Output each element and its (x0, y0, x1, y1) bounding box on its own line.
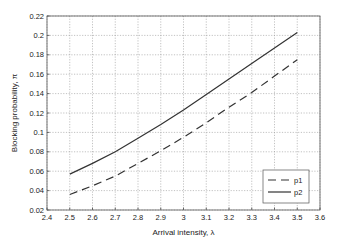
x-tick-label: 2.8 (133, 213, 143, 222)
y-tick-label: 0.08 (29, 147, 44, 156)
x-tick-label: 2.9 (156, 213, 166, 222)
y-tick-label: 0.14 (29, 89, 44, 98)
x-tick-label: 2.7 (110, 213, 120, 222)
line-chart: 2.42.52.62.72.82.933.13.23.33.43.53.60.0… (0, 0, 337, 247)
y-tick-label: 0.02 (29, 206, 44, 215)
y-tick-label: 0.2 (34, 31, 44, 40)
y-tick-label: 0.16 (29, 70, 44, 79)
y-tick-label: 0.06 (29, 167, 44, 176)
x-tick-label: 3 (181, 213, 185, 222)
x-axis-title: Arrival intensity, λ (152, 228, 214, 237)
y-tick-label: 0.04 (29, 186, 44, 195)
legend-box (263, 170, 309, 203)
legend-label-p1: p1 (294, 176, 302, 185)
x-tick-label: 3.4 (269, 213, 279, 222)
x-tick-label: 3.3 (247, 213, 257, 222)
x-tick-label: 3.6 (315, 213, 325, 222)
y-tick-label: 0.1 (34, 128, 44, 137)
y-axis-title: Blocking probability, π (10, 73, 19, 152)
legend-label-p2: p2 (294, 188, 302, 197)
x-tick-label: 2.5 (65, 213, 75, 222)
y-tick-label: 0.22 (29, 12, 44, 21)
x-tick-label: 3.2 (224, 213, 234, 222)
x-tick-label: 3.1 (201, 213, 211, 222)
y-tick-label: 0.18 (29, 50, 44, 59)
x-tick-label: 3.5 (292, 213, 302, 222)
y-tick-label: 0.12 (29, 109, 44, 118)
x-tick-label: 2.6 (87, 213, 97, 222)
